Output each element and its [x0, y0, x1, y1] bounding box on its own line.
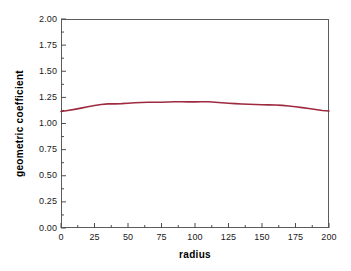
y-tick-label: 1.75: [3, 41, 57, 50]
y-axis-tick-labels: 0.000.250.500.751.001.251.501.752.00: [0, 0, 57, 271]
data-series-line: [61, 102, 329, 112]
y-tick-label: 0.75: [3, 145, 57, 154]
plot-canvas: [61, 19, 329, 228]
y-tick-label: 1.50: [3, 67, 57, 76]
y-axis-title: geometric coefficient: [14, 19, 28, 228]
y-tick-label: 2.00: [3, 15, 57, 24]
x-axis-title: radius: [61, 249, 329, 260]
x-tick-label: 200: [309, 232, 349, 242]
x-axis-tick-labels: 0255075100125150175200: [0, 232, 351, 246]
y-tick-label: 1.25: [3, 93, 57, 102]
y-tick-label: 0.50: [3, 171, 57, 180]
y-tick-label: 0.25: [3, 197, 57, 206]
x-major-tick-marks: [61, 223, 329, 228]
chart-figure: 0.000.250.500.751.001.251.501.752.00 025…: [0, 0, 351, 271]
y-tick-label: 1.00: [3, 119, 57, 128]
y-major-tick-marks: [61, 19, 66, 228]
